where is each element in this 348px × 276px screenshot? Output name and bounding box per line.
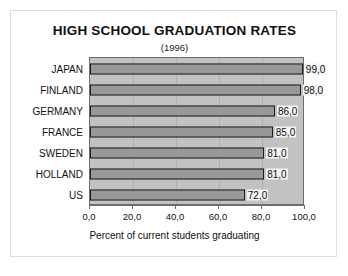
bar-row: FRANCE85,0	[90, 121, 303, 142]
bar-row: JAPAN99,0	[90, 58, 303, 79]
data-label: 85,0	[275, 126, 296, 137]
category-label: FRANCE	[42, 126, 83, 137]
x-tick	[218, 205, 219, 209]
data-label: 81,0	[266, 169, 287, 180]
category-label: SWEDEN	[39, 148, 83, 159]
bar[interactable]	[90, 63, 303, 74]
category-label: HOLLAND	[36, 169, 83, 180]
category-label: JAPAN	[52, 63, 84, 74]
data-label: 86,0	[277, 105, 298, 116]
x-tick	[132, 205, 133, 209]
x-tick-label: 40,0	[166, 211, 185, 222]
x-tick-label: 80,0	[252, 211, 271, 222]
bar[interactable]	[90, 84, 301, 95]
data-label: 81,0	[266, 148, 287, 159]
x-tick-label: 60,0	[209, 211, 228, 222]
category-label: GERMANY	[32, 105, 83, 116]
x-axis-title: Percent of current students graduating	[11, 230, 338, 241]
data-label: 98,0	[303, 84, 324, 95]
bar[interactable]	[90, 190, 245, 201]
x-axis-line	[89, 205, 304, 206]
x-tick-label: 100,0	[292, 211, 316, 222]
chart-subtitle: (1996)	[11, 42, 338, 53]
x-tick	[89, 205, 90, 209]
bar[interactable]	[90, 126, 273, 137]
plot-area: JAPAN99,0FINLAND98,0GERMANY86,0FRANCE85,…	[89, 57, 304, 205]
bar[interactable]	[90, 148, 264, 159]
bar-row: HOLLAND81,0	[90, 164, 303, 185]
x-tick-label: 0,0	[82, 211, 95, 222]
data-label: 72,0	[247, 190, 268, 201]
bar[interactable]	[90, 169, 264, 180]
x-tick	[175, 205, 176, 209]
chart-title: HIGH SCHOOL GRADUATION RATES	[11, 23, 338, 38]
x-tick-label: 20,0	[123, 211, 142, 222]
x-tick	[304, 205, 305, 209]
x-tick	[261, 205, 262, 209]
category-label: US	[69, 190, 83, 201]
bar-row: GERMANY86,0	[90, 100, 303, 121]
bar[interactable]	[90, 105, 275, 116]
bar-row: SWEDEN81,0	[90, 143, 303, 164]
bar-row: US72,0	[90, 185, 303, 206]
bar-row: FINLAND98,0	[90, 79, 303, 100]
category-label: FINLAND	[40, 84, 83, 95]
data-label: 99,0	[305, 63, 326, 74]
chart-container: HIGH SCHOOL GRADUATION RATES (1996) JAPA…	[10, 10, 337, 257]
